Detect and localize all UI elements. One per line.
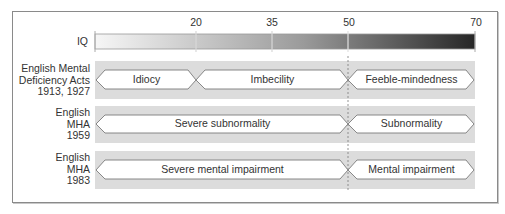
row-label-mha-1983: English MHA 1983 [10, 152, 90, 187]
segment-label-feeble-mindedness: Feeble-mindedness [357, 73, 466, 85]
segment-label-imbecility: Imbecility [205, 73, 340, 85]
iq-axis-label: IQ [40, 36, 88, 48]
segment-label-subnormality: Subnormality [357, 117, 466, 129]
tick-label-70: 70 [470, 16, 482, 28]
segment-label-idiocy: Idiocy [105, 73, 188, 85]
tick-label-35: 35 [266, 16, 278, 28]
row-label-mha-1959: English MHA 1959 [10, 107, 90, 142]
segment-label-severe-mental-impairment: Severe mental impairment [105, 163, 340, 175]
tick-label-20: 20 [190, 16, 202, 28]
row-label-mental-deficiency-acts: English Mental Deficiency Acts 1913, 192… [10, 63, 90, 98]
segment-label-mental-impairment: Mental impairment [357, 163, 466, 175]
tick-label-50: 50 [343, 16, 355, 28]
segment-label-severe-subnormality: Severe subnormality [105, 117, 340, 129]
iq-scale-bar [95, 31, 475, 52]
